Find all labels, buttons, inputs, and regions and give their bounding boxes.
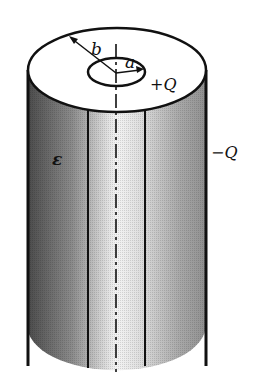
label-minus-q: −Q (211, 143, 238, 162)
label-plus-q: +Q (150, 75, 177, 94)
label-a: a (125, 52, 135, 72)
label-epsilon: ε (52, 149, 62, 169)
cylindrical-capacitor-diagram: b a +Q −Q ε (0, 0, 260, 376)
label-b: b (91, 39, 102, 59)
